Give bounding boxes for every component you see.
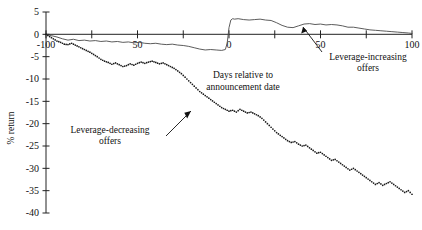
y-axis-tick-labels: 50-5-10-15-20-25-30-35-40 [26, 6, 39, 218]
y-tick-label: -20 [26, 118, 39, 129]
x-axis-title-line2: announcement date [206, 82, 280, 92]
leverage-decreasing-label-line2: offers [99, 136, 121, 146]
y-tick-label: 5 [34, 6, 39, 17]
annotation-leverage-decreasing: Leverage-decreasing offers [70, 111, 191, 146]
chart-canvas: 50-5-10-15-20-25-30-35-40 -10050050100 %… [0, 0, 422, 230]
x-axis-title-line1: Days relative to [213, 70, 273, 80]
y-tick-label: -40 [26, 207, 39, 218]
y-axis-title: % return [6, 111, 16, 144]
y-tick-label: -10 [26, 73, 39, 84]
x-tick-label: 50 [133, 39, 143, 50]
y-tick-label: 0 [34, 29, 39, 40]
x-tick-label: 100 [405, 39, 420, 50]
leverage-increasing-label-line1: Leverage-increasing [329, 52, 407, 62]
chart-figure: 50-5-10-15-20-25-30-35-40 -10050050100 %… [0, 0, 422, 230]
leverage-increasing-label-line2: offers [357, 63, 379, 73]
leverage-decreasing-label-line1: Leverage-decreasing [70, 125, 149, 135]
y-tick-label: -15 [26, 96, 39, 107]
y-tick-label: -25 [26, 140, 39, 151]
y-tick-label: -5 [31, 51, 39, 62]
y-tick-label: -30 [26, 163, 39, 174]
y-tick-label: -35 [26, 185, 39, 196]
x-tick-label: -100 [37, 39, 55, 50]
